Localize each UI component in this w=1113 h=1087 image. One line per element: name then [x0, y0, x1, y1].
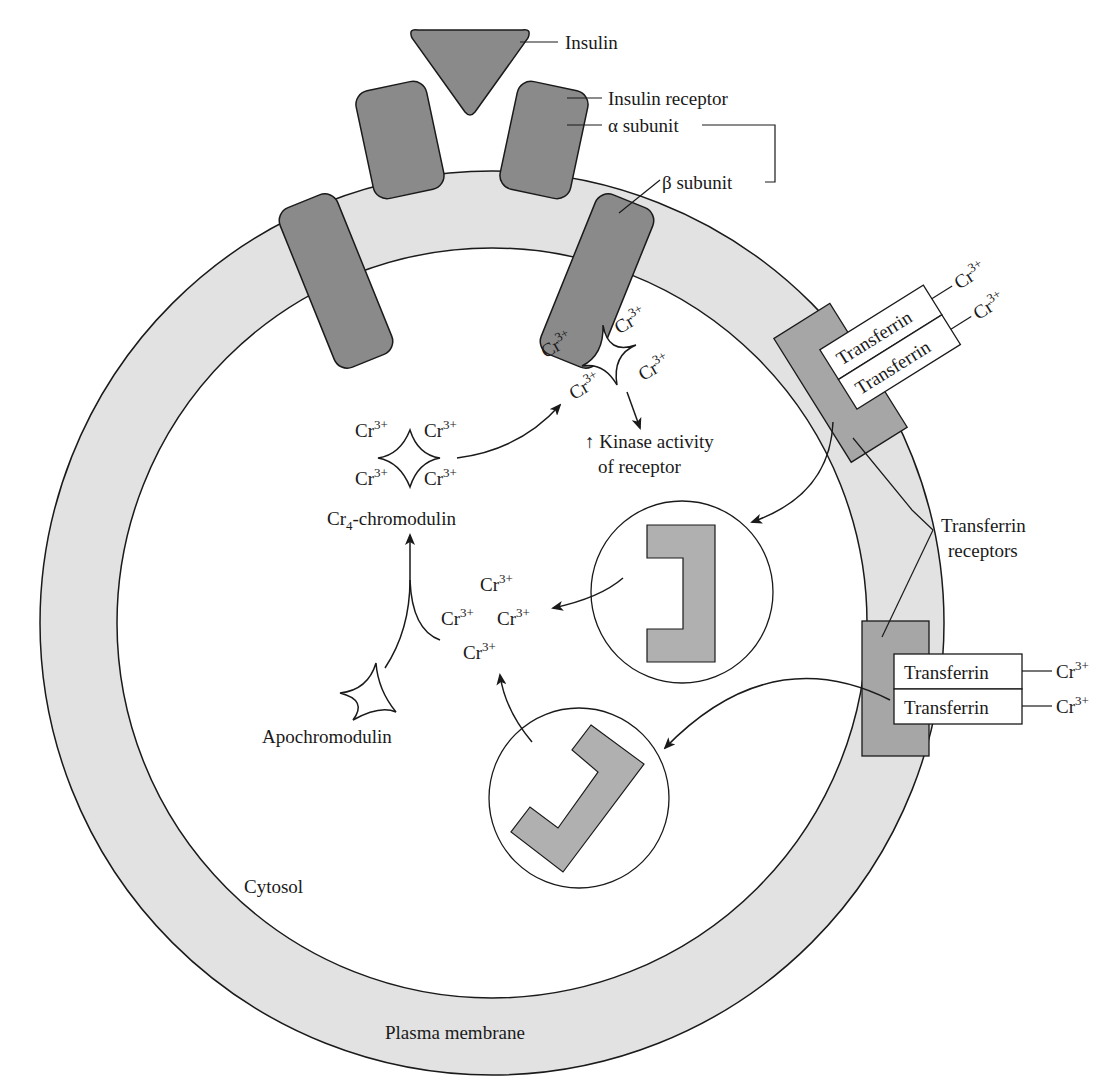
svg-text:Cr3+: Cr3+ [949, 255, 990, 293]
chromodulin-insulin-signaling-diagram: Insulin Insulin receptor α subunit β sub… [0, 0, 1113, 1087]
svg-text:Cr3+: Cr3+ [1056, 693, 1089, 717]
transferrin-receptor-lower: Transferrin Transferrin Cr3+ Cr3+ [862, 621, 1089, 756]
alpha-subunit-label: α subunit [608, 115, 679, 136]
svg-text:Cr3+: Cr3+ [968, 286, 1009, 324]
plasma-membrane [40, 171, 944, 1075]
cytosol-label: Cytosol [244, 876, 303, 897]
svg-text:Cr3+: Cr3+ [1056, 658, 1089, 682]
endosome-upper [591, 501, 773, 683]
transferrin-receptors-label: Transferrin [941, 515, 1026, 536]
plasma-membrane-label: Plasma membrane [385, 1022, 525, 1043]
kinase-activity-label-line2: of receptor [598, 456, 681, 477]
apochromodulin-label: Apochromodulin [262, 726, 392, 747]
svg-text:Transferrin: Transferrin [904, 662, 989, 683]
svg-text:Transferrin: Transferrin [904, 697, 989, 718]
alpha-subunit-left [353, 79, 446, 202]
kinase-activity-label: ↑ Kinase activity [585, 431, 714, 452]
endosome-lower [489, 708, 669, 888]
beta-subunit-label: β subunit [662, 172, 733, 193]
transferrin-receptors-label-line2: receptors [948, 540, 1018, 561]
insulin-label: Insulin [565, 32, 618, 53]
insulin-receptor-label: Insulin receptor [608, 88, 728, 109]
